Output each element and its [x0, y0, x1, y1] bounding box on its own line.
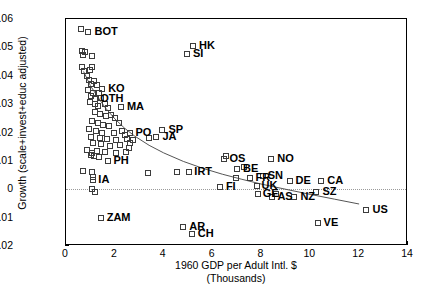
data-point-label-ia: IA [98, 174, 109, 185]
y-tick-label: 0.01 [0, 155, 13, 166]
data-point-label-irt: IRT [194, 166, 212, 177]
data-point-label-no: NO [277, 153, 294, 164]
data-point [80, 168, 86, 174]
x-tick-mark [407, 241, 408, 245]
data-point-zam [98, 215, 104, 221]
data-point-ko [99, 86, 105, 92]
data-point [89, 150, 95, 156]
data-point-label-as: AS [277, 191, 292, 202]
data-point-label-ve: VE [324, 217, 339, 228]
data-point-label-ja: JA [162, 131, 176, 142]
x-tick-label: 0 [45, 248, 85, 259]
data-point-label-fi: FI [226, 181, 236, 192]
data-point-label-si: SI [193, 48, 203, 59]
data-point [107, 143, 113, 149]
data-point-irt [186, 169, 192, 175]
data-point-no [268, 156, 274, 162]
data-point-ma [118, 104, 124, 110]
x-tick-label: 6 [192, 248, 232, 259]
data-point-label-oth: OTH [100, 93, 123, 104]
data-point-ph [105, 158, 111, 164]
data-point-label-de: DE [296, 175, 311, 186]
data-point-ch [189, 231, 195, 237]
y-tick-label: 0.02 [0, 127, 13, 138]
x-tick-label: 4 [143, 248, 183, 259]
data-point-label-sz: SZ [322, 186, 336, 197]
data-point [78, 26, 84, 32]
x-axis-title-line1: 1960 GDP per Adult Intl. $ [65, 259, 407, 272]
x-tick-label: 14 [387, 248, 422, 259]
zero-reference-line [66, 189, 406, 190]
data-point [111, 130, 117, 136]
data-point-po [127, 130, 133, 136]
data-point [92, 189, 98, 195]
data-point-si [184, 51, 190, 57]
y-tick-mark [65, 245, 69, 246]
data-point-label-us: US [372, 204, 387, 215]
data-point-fi [217, 184, 223, 190]
data-point [89, 64, 95, 70]
data-point [102, 149, 108, 155]
data-point [88, 134, 94, 140]
data-point [89, 118, 95, 124]
x-axis-title: 1960 GDP per Adult Intl. $ (Thousands) [65, 259, 407, 285]
data-point-label-nz: NZ [300, 191, 315, 202]
data-point-fr [247, 175, 253, 181]
data-point-label-ph: PH [114, 155, 129, 166]
data-point [96, 154, 102, 160]
data-point [97, 135, 103, 141]
data-point-oth [92, 96, 98, 102]
y-tick-label: 0 [0, 183, 13, 194]
data-point-ge [255, 191, 261, 197]
data-point-de [287, 178, 293, 184]
data-point-ia [90, 177, 96, 183]
data-point [126, 145, 132, 151]
data-point-ja [153, 134, 159, 140]
data-point-ca [318, 178, 324, 184]
data-point-bot [85, 29, 91, 35]
data-point [116, 120, 122, 126]
data-point [98, 141, 104, 147]
data-point [80, 52, 86, 58]
y-tick-label: 0.06 [0, 13, 13, 24]
data-point [90, 140, 96, 146]
y-tick-label: 0.03 [0, 98, 13, 109]
plot-area: BOTHKSIKOOTHMAPOSPJAPHIAZAMIRTOSNOBEFRSN… [65, 18, 407, 245]
data-point-os [221, 156, 227, 162]
data-point [174, 169, 180, 175]
data-point [145, 170, 151, 176]
data-point [86, 126, 92, 132]
data-point-label-ge: GE [263, 188, 279, 199]
data-point-uk [254, 183, 260, 189]
x-tick-label: 12 [338, 248, 378, 259]
y-tick-label: 0.05 [0, 41, 13, 52]
y-tick-label: 0.04 [0, 70, 13, 81]
y-tick-label: -0.02 [0, 240, 13, 251]
y-axis-title: Growth (scale+invest+educ adjusted) [16, 0, 30, 272]
data-point [104, 136, 110, 142]
x-tick-label: 2 [94, 248, 134, 259]
data-point [105, 105, 111, 111]
scatter-chart-figure: Growth (scale+invest+educ adjusted) 1960… [0, 0, 422, 298]
y-tick-label: -0.01 [0, 212, 13, 223]
data-point [89, 53, 95, 59]
data-point-ar [180, 224, 186, 230]
data-point [117, 142, 123, 148]
x-tick-label: 8 [240, 248, 280, 259]
data-point-be [234, 166, 240, 172]
data-point-label-ma: MA [127, 101, 144, 112]
x-tick-label: 10 [289, 248, 329, 259]
x-axis-title-line2: (Thousands) [65, 272, 407, 285]
data-point [106, 123, 112, 129]
data-point-label-ch: CH [198, 228, 214, 239]
data-point-label-po: PO [136, 127, 152, 138]
data-point-ve [315, 220, 321, 226]
data-point-label-bot: BOT [94, 26, 117, 37]
data-point-label-zam: ZAM [107, 212, 131, 223]
data-point-us [363, 207, 369, 213]
